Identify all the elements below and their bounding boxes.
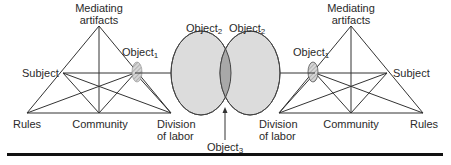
left-object1-label: Object1 <box>122 46 158 62</box>
right-object2-label: Object2 <box>229 22 265 38</box>
right-community-label: Community <box>323 118 379 130</box>
left-mediating-artifacts-label: Mediating artifacts <box>75 2 123 26</box>
left-subject-label: Subject <box>22 67 59 79</box>
left-object2-label: Object2 <box>186 22 222 38</box>
left-community-label: Community <box>72 118 128 130</box>
right-rules-label: Rules <box>410 118 438 130</box>
right-subject-label: Subject <box>393 67 430 79</box>
right-division-of-labor-label: Division of labor <box>259 118 298 142</box>
left-division-of-labor-label: Division of labor <box>157 118 196 142</box>
right-object1-label: Object1 <box>293 46 329 62</box>
right-mediating-artifacts-label: Mediating artifacts <box>327 2 375 26</box>
right-object1-ellipse <box>308 62 318 82</box>
left-object1-ellipse <box>132 62 142 82</box>
object3-arrow <box>223 107 228 140</box>
bottom-rule <box>7 153 443 156</box>
left-rules-label: Rules <box>13 118 41 130</box>
